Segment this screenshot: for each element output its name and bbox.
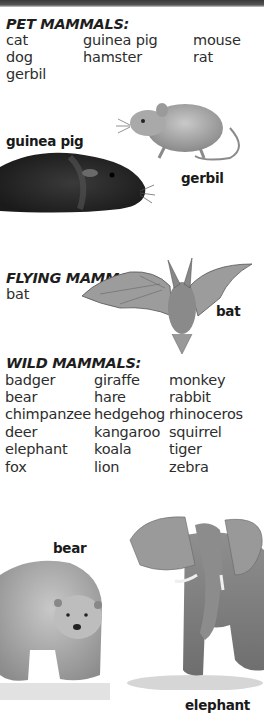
pet-word: gerbil xyxy=(6,66,46,83)
wild-mammals-heading: WILD MAMMALS: xyxy=(6,355,141,371)
wild-word: zebra xyxy=(169,459,209,476)
wild-word: bear xyxy=(5,389,37,406)
pet-word: guinea pig xyxy=(83,32,157,49)
guinea-pig-illustration xyxy=(0,147,160,217)
pet-word: cat xyxy=(6,32,28,49)
wild-word: rabbit xyxy=(169,389,211,406)
bear-illustration xyxy=(0,555,110,700)
elephant-illustration xyxy=(125,505,264,690)
pet-word: rat xyxy=(193,49,213,66)
pet-mammals-heading: PET MAMMALS: xyxy=(6,16,129,32)
pet-word: dog xyxy=(6,49,33,66)
wild-word: elephant xyxy=(5,441,67,458)
wild-word: badger xyxy=(5,372,55,389)
wild-word: kangaroo xyxy=(94,424,160,441)
wild-word: deer xyxy=(5,424,37,441)
wild-word: squirrel xyxy=(169,424,222,441)
wild-word: fox xyxy=(5,459,27,476)
wild-word: tiger xyxy=(169,441,202,458)
guinea-pig-caption: guinea pig xyxy=(6,133,83,149)
wild-word: koala xyxy=(94,441,132,458)
bear-caption: bear xyxy=(53,540,86,556)
wild-word: lion xyxy=(94,459,119,476)
gerbil-caption: gerbil xyxy=(181,170,224,186)
flying-word: bat xyxy=(6,286,29,303)
wild-word: hare xyxy=(94,389,126,406)
wild-word: chimpanzee xyxy=(5,406,91,423)
elephant-caption: elephant xyxy=(185,697,250,713)
wild-word: hedgehog xyxy=(94,406,165,423)
pet-word: mouse xyxy=(193,32,241,49)
wild-word: giraffe xyxy=(94,372,140,389)
wild-word: monkey xyxy=(169,372,225,389)
bat-caption: bat xyxy=(216,303,240,319)
wild-word: rhinoceros xyxy=(169,406,243,423)
pet-word: hamster xyxy=(83,49,142,66)
top-border-bar xyxy=(0,0,264,7)
